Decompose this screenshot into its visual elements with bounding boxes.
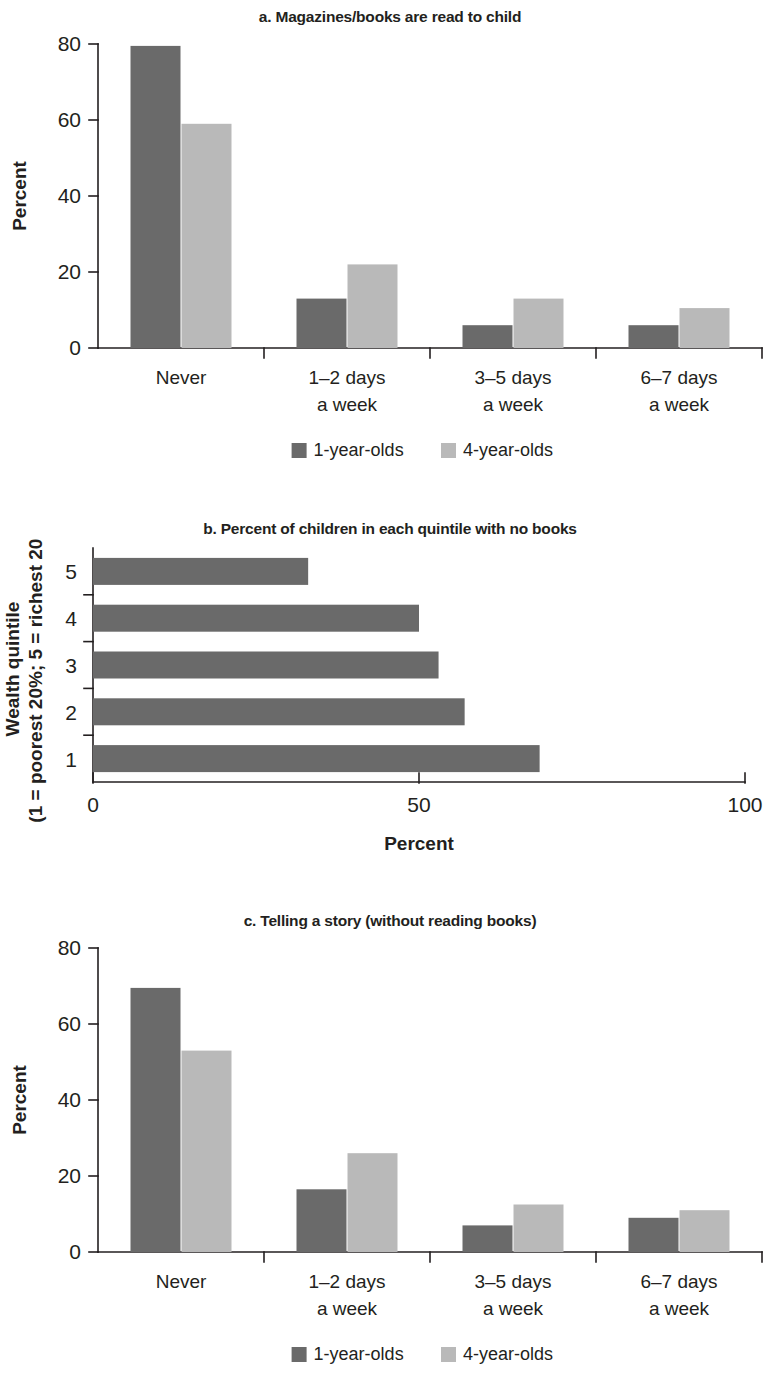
panel-a-bar [629,325,679,348]
panel-b-bar [93,652,439,679]
panel-b-y-category-label: 5 [65,560,77,583]
panel-a-magazines-books-read: a. Magazines/books are read to child 020… [0,0,780,490]
panel-b-x-axis-title: Percent [384,833,454,854]
panel-a-y-tick-label: 0 [69,336,81,359]
panel-a-legend-swatch-series-1 [292,443,307,458]
panel-b-title: b. Percent of children in each quintile … [0,490,780,538]
panel-c-y-tick-label: 60 [58,1012,81,1035]
panel-a-y-tick-label: 40 [58,184,81,207]
panel-c-bar [463,1225,513,1252]
panel-a-y-tick-label: 20 [58,260,81,283]
panel-c-bar [629,1218,679,1252]
panel-c-y-tick-label: 0 [69,1240,81,1263]
panel-c-x-category-label: a week [649,1298,710,1319]
panel-a-legend-label-series-2: 4-year-olds [463,440,553,460]
panel-a-y-tick-label: 60 [58,108,81,131]
panel-a-bar [131,46,181,348]
panel-c-x-category-label: Never [156,1271,207,1292]
panel-c-legend-label-series-1: 1-year-olds [314,1344,404,1364]
panel-b-bar [93,558,308,585]
panel-c-x-category-label: a week [483,1298,544,1319]
panel-c-x-category-label: 3–5 days [474,1271,551,1292]
panel-b-bar [93,605,419,632]
panel-c-y-tick-label: 80 [58,936,81,959]
panel-a-bar [297,299,347,348]
panel-b-bar [93,745,540,772]
panel-b-bar [93,698,465,725]
panel-b-x-tick-label: 0 [87,793,99,816]
panel-c-legend-swatch-series-2 [441,1347,456,1362]
panel-c-bar [348,1153,398,1252]
panel-b-y-axis-title-line: Wealth quintile [2,602,23,737]
panel-a-bar [348,264,398,348]
panel-c-bar [131,988,181,1252]
panel-c-legend-label-series-2: 4-year-olds [463,1344,553,1364]
panel-c-title: c. Telling a story (without reading book… [0,890,780,930]
panel-c-y-axis-title: Percent [9,1064,30,1134]
panel-a-bar [182,124,232,348]
panel-a-x-category-label: a week [317,394,378,415]
panel-c-y-tick-label: 20 [58,1164,81,1187]
panel-c-chart: 020406080PercentNever1–2 daysa week3–5 d… [0,930,780,1385]
panel-a-y-tick-label: 80 [58,32,81,55]
panel-a-bar [463,325,513,348]
panel-c-bar [514,1205,564,1253]
panel-c-telling-a-story: c. Telling a story (without reading book… [0,890,780,1385]
panel-a-x-category-label: 3–5 days [474,367,551,388]
panel-b-y-category-label: 2 [65,701,77,724]
panel-a-x-category-label: 6–7 days [640,367,717,388]
panel-a-x-category-label: a week [483,394,544,415]
panel-c-y-tick-label: 40 [58,1088,81,1111]
panel-b-y-axis-title: Wealth quintile(1 = poorest 20%; 5 = ric… [2,538,46,823]
panel-a-legend-swatch-series-2 [441,443,456,458]
panel-a-x-category-label: Never [156,367,207,388]
panel-a-chart: 020406080PercentNever1–2 daysa week3–5 d… [0,26,780,466]
panel-c-bar [680,1210,730,1252]
panel-a-title: a. Magazines/books are read to child [0,0,780,26]
panel-a-bar [514,299,564,348]
panel-a-x-category-label: a week [649,394,710,415]
panel-c-bar [297,1189,347,1252]
panel-b-y-category-label: 3 [65,654,77,677]
panel-b-y-category-label: 4 [65,607,77,630]
panel-c-legend-swatch-series-1 [292,1347,307,1362]
panel-a-legend-label-series-1: 1-year-olds [314,440,404,460]
panel-b-y-category-label: 1 [65,748,77,771]
panel-a-x-category-label: 1–2 days [308,367,385,388]
panel-b-x-tick-label: 100 [727,793,762,816]
panel-b-chart: 050100Percent12345Wealth quintile(1 = po… [0,538,780,898]
panel-a-bar [680,308,730,348]
panel-b-y-axis-title-line: (1 = poorest 20%; 5 = richest 20%) [25,538,46,823]
panel-c-x-category-label: 6–7 days [640,1271,717,1292]
panel-c-bar [182,1051,232,1252]
panel-b-quintile-no-books: b. Percent of children in each quintile … [0,490,780,890]
panel-c-x-category-label: 1–2 days [308,1271,385,1292]
panel-c-x-category-label: a week [317,1298,378,1319]
panel-b-x-tick-label: 50 [407,793,430,816]
panel-a-y-axis-title: Percent [9,160,30,230]
